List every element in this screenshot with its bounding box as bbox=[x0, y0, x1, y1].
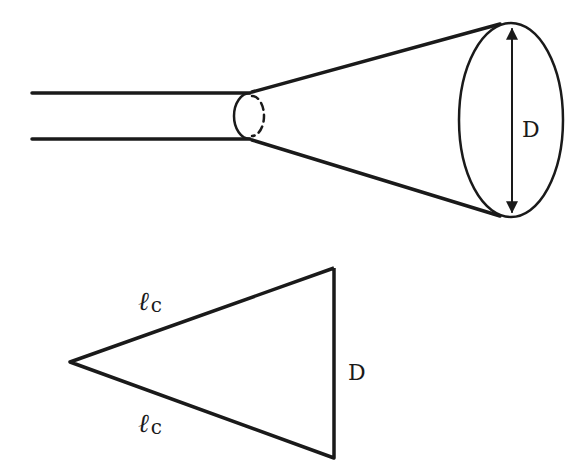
throat-ellipse-front bbox=[234, 93, 250, 139]
diameter-label: D bbox=[522, 117, 540, 142]
unrolled-triangle bbox=[70, 268, 334, 458]
triangle-outline bbox=[70, 268, 334, 458]
throat-ellipse-back-dashed bbox=[252, 96, 264, 136]
slant-length-label-top: ℓc bbox=[138, 286, 162, 317]
slant-length-label-bottom: ℓc bbox=[138, 408, 162, 439]
horn-figure bbox=[32, 23, 563, 217]
base-diameter-label: D bbox=[348, 360, 366, 385]
cone-diagram: D ℓc ℓc D bbox=[0, 0, 585, 476]
